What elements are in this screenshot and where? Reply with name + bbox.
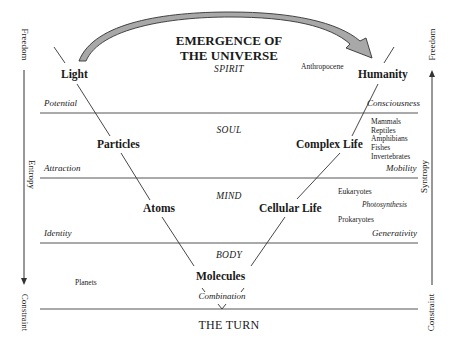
quality-consciousness: Consciousness [367,99,420,108]
annotation-eukaryotes: Eukaryotes [338,188,372,196]
annotation-prokaryotes: Prokaryotes [338,216,374,224]
level-soul: SOUL [217,126,242,136]
the-turn-label: THE TURN [198,319,259,331]
right-branch-lines [241,47,394,292]
left-axis-constraint: Constraint [20,287,29,339]
quality-mobility: Mobility [386,164,417,173]
title-line-2: THE UNIVERSE [176,48,283,63]
list-item: Invertebrates [371,153,410,162]
level-spirit: SPIRIT [214,65,244,75]
quality-generativity: Generativity [372,229,417,238]
node-humanity: Humanity [358,69,408,81]
title-line-1: EMERGENCE OF [176,33,283,48]
annotation-anthropocene: Anthropocene [301,63,343,71]
node-molecules: Molecules [196,271,245,283]
quality-identity: Identity [44,229,72,238]
right-axis-freedom: Freedom [428,23,437,67]
left-axis-freedom: Freedom [20,23,29,67]
diagram-title: EMERGENCE OF THE UNIVERSE [176,33,283,63]
level-body: BODY [216,251,242,261]
node-complex-life: Complex Life [296,139,363,151]
node-light: Light [61,69,88,81]
annotation-photosynthesis: Photosynthesis [362,201,407,209]
level-mind: MIND [216,192,241,202]
right-axis-arrowhead-icon [429,70,435,77]
right-axis-syntropy: Syntropy [420,155,429,199]
left-axis-entropy: Entropy [27,153,36,197]
right-axis-constraint: Constraint [427,287,436,339]
level-combination: Combination [198,292,245,301]
complex-life-list: Mammals Reptiles Amphibians Fishes Inver… [371,118,410,162]
left-axis-arrowhead-icon [21,278,27,285]
node-atoms: Atoms [143,203,175,215]
turn-vertex-icon [218,304,226,309]
node-cellular-life: Cellular Life [259,203,322,215]
node-particles: Particles [97,139,140,151]
annotation-planets: Planets [75,279,97,287]
quality-potential: Potential [44,99,77,108]
quality-attraction: Attraction [44,164,81,173]
